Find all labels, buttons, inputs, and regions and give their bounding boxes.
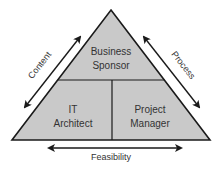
role-triangle-diagram: Business Sponsor IT Architect Project Ma… [0, 0, 222, 171]
section-label-line2: Manager [130, 118, 170, 129]
triangle-outline [12, 10, 210, 140]
section-label-line1: Project [134, 104, 165, 115]
feasibility-axis-label: Feasibility [91, 152, 132, 162]
process-axis-label: Process [169, 49, 197, 81]
section-label-line1: Business [91, 46, 132, 57]
section-label-line2: Architect [54, 118, 93, 129]
section-label-line1: IT [69, 104, 78, 115]
section-label-line2: Sponsor [92, 60, 130, 71]
